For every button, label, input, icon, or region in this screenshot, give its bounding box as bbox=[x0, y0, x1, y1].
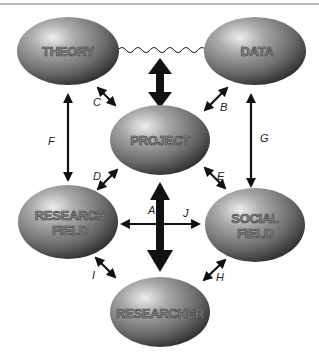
node-theory: THEORY bbox=[17, 17, 119, 85]
edge-label-a: A bbox=[147, 204, 155, 216]
edge-label-c: C bbox=[93, 96, 101, 108]
concept-diagram: THEORY DATA PROJECT RESEARCH FIELD SOCIA… bbox=[0, 0, 319, 362]
edge-label-h: H bbox=[216, 271, 224, 283]
edge-label-d: D bbox=[93, 170, 101, 182]
thick-arrow-top-center bbox=[148, 58, 172, 108]
wavy-link-theory-data bbox=[118, 48, 206, 53]
edge-label-b: B bbox=[220, 101, 227, 113]
node-social-field: SOCIAL FIELD bbox=[205, 188, 305, 262]
node-data: DATA bbox=[204, 17, 306, 85]
arrow-a bbox=[147, 182, 173, 272]
node-data-label: DATA bbox=[241, 44, 275, 59]
edge-label-i: I bbox=[92, 269, 95, 281]
node-theory-label: THEORY bbox=[42, 44, 95, 59]
node-research-field-label-line2: FIELD bbox=[52, 223, 88, 238]
node-social-field-label-line2: FIELD bbox=[237, 226, 273, 241]
node-project-label: PROJECT bbox=[130, 133, 190, 148]
edge-label-j: J bbox=[182, 207, 189, 219]
node-project: PROJECT bbox=[110, 105, 210, 175]
edge-label-g: G bbox=[260, 132, 269, 144]
node-social-field-label-line1: SOCIAL bbox=[231, 211, 279, 226]
node-researcher-label: RESEARCHER bbox=[116, 306, 205, 321]
arrow-i bbox=[96, 258, 115, 277]
node-researcher: RESEARCHER bbox=[110, 277, 210, 347]
node-research-field: RESEARCH FIELD bbox=[18, 185, 118, 259]
edge-label-e: E bbox=[217, 170, 225, 182]
node-research-field-label-line1: RESEARCH bbox=[35, 208, 106, 223]
edge-label-f: F bbox=[48, 135, 56, 147]
